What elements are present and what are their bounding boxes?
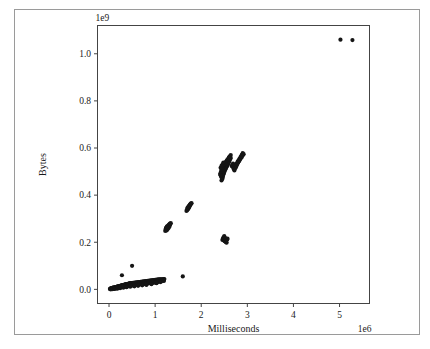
data-point xyxy=(241,151,245,155)
y-tick-label: 0.2 xyxy=(79,238,91,248)
y-tick-label: 0.8 xyxy=(79,96,91,106)
y-axis-offset-label: 1e9 xyxy=(96,13,110,23)
data-point xyxy=(136,284,140,288)
y-tick-label: 0.4 xyxy=(79,190,91,200)
data-point xyxy=(181,274,185,278)
x-tick-label: 2 xyxy=(199,310,204,320)
y-tick-label: 0.6 xyxy=(79,143,91,153)
data-point xyxy=(189,201,193,205)
data-point xyxy=(221,161,225,165)
data-point xyxy=(218,173,222,177)
x-tick-label: 0 xyxy=(107,310,112,320)
x-tick-label: 4 xyxy=(291,310,296,320)
data-point xyxy=(132,284,136,288)
scatter-plot: 0123450.00.20.40.60.81.01e91e6Millisecon… xyxy=(0,0,430,349)
x-tick-label: 3 xyxy=(245,310,250,320)
x-tick-label: 5 xyxy=(337,310,342,320)
x-axis-label: Milliseconds xyxy=(208,323,260,334)
x-axis-offset-label: 1e6 xyxy=(358,324,372,334)
data-point xyxy=(149,282,153,286)
data-point xyxy=(130,264,134,268)
data-point xyxy=(128,285,132,289)
data-point xyxy=(124,285,128,289)
data-point xyxy=(144,283,148,287)
figure-canvas: 0123450.00.20.40.60.81.01e91e6Millisecon… xyxy=(0,0,430,349)
data-point xyxy=(225,237,229,241)
data-point xyxy=(154,281,158,285)
data-point xyxy=(350,38,354,42)
y-tick-label: 0.0 xyxy=(79,285,91,295)
scatter-series xyxy=(108,38,355,292)
y-axis-label: Bytes xyxy=(37,153,48,176)
data-point xyxy=(220,177,224,181)
data-point xyxy=(140,283,144,287)
data-point xyxy=(169,221,173,225)
y-tick-label: 1.0 xyxy=(79,49,91,59)
x-tick-label: 1 xyxy=(153,310,158,320)
data-point xyxy=(338,38,342,42)
data-point xyxy=(231,161,235,165)
data-point xyxy=(227,156,231,160)
data-point xyxy=(120,273,124,277)
data-point xyxy=(162,279,166,283)
data-point xyxy=(165,225,169,229)
